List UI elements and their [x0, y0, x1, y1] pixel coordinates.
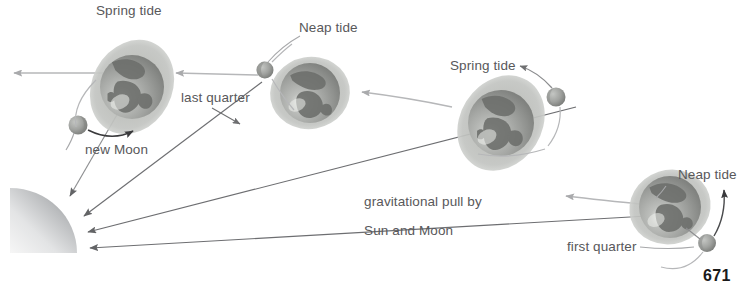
- label-neap-tide-right: Neap tide: [678, 168, 737, 183]
- earth-last-quarter: [264, 51, 355, 136]
- moon-orbit-path-4: [661, 252, 703, 269]
- label-neap-tide-top: Neap tide: [299, 21, 358, 36]
- orbit-arrow-2: [176, 73, 258, 75]
- page-number: 671: [703, 267, 731, 285]
- moon-last-quarter: [257, 62, 274, 79]
- tides-diagram: Spring tide Neap tide last quarter new M…: [0, 0, 756, 287]
- sun-quarter-disc: [10, 188, 77, 253]
- label-first-quarter: first quarter: [567, 240, 637, 255]
- orbit-arrow-3: [362, 92, 452, 107]
- gravitational-pull-line-1: gravitational pull by: [364, 194, 482, 209]
- label-gravitational-pull: gravitational pull by Sun and Moon: [341, 180, 482, 253]
- label-spring-tide-right: Spring tide: [450, 59, 516, 74]
- earth-new-moon: [74, 25, 191, 149]
- label-last-quarter: last quarter: [181, 91, 250, 106]
- leader-new-moon: [66, 133, 74, 150]
- earth-full-moon: [440, 59, 563, 187]
- moon-first-quarter: [698, 234, 716, 252]
- leader-neap-tide-top: [268, 36, 300, 62]
- leader-first-quarter: [640, 247, 694, 249]
- label-spring-tide-left: Spring tide: [96, 4, 162, 19]
- label-new-moon: new Moon: [85, 143, 148, 158]
- moon-orbit-arrow-4: [714, 190, 724, 236]
- gravitational-pull-line-2: Sun and Moon: [364, 223, 453, 238]
- moon-full: [547, 88, 566, 107]
- moon-new: [69, 116, 88, 135]
